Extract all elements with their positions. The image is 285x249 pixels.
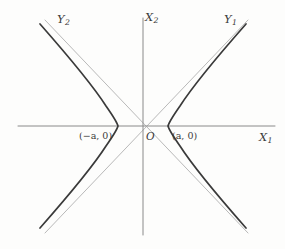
figure-canvas: [0, 0, 285, 249]
origin-label: O: [146, 131, 155, 142]
vertex-label-right: (a, 0): [172, 131, 197, 141]
hyperbola-figure: X1 X2 Y1 Y2 O (−a, 0) (a, 0): [0, 0, 285, 249]
asymptote-label-y2: Y2: [57, 14, 70, 27]
x-axis-label: X1: [259, 132, 273, 145]
asymptote-label-y1: Y1: [224, 14, 237, 27]
vertex-label-left: (−a, 0): [79, 131, 112, 141]
y-axis-label: X2: [145, 12, 159, 25]
